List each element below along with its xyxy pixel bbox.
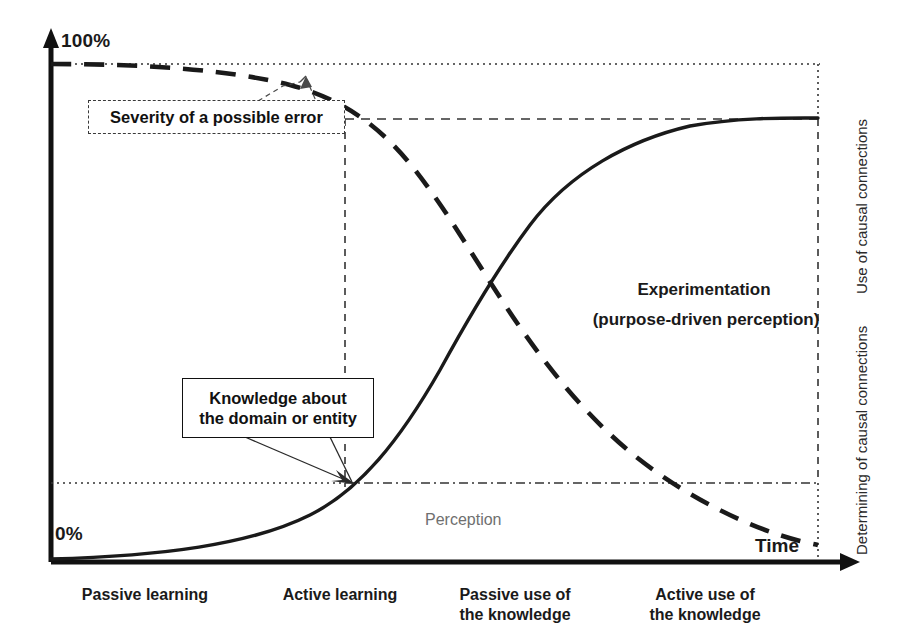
x-stage-label-active-learning: Active learning [240, 585, 440, 605]
curve-severity [51, 64, 818, 545]
y-axis [43, 28, 59, 562]
knowledge-callout[interactable]: Knowledge about the domain or entity [182, 378, 374, 438]
y-axis-min-label: 0% [55, 523, 83, 545]
zone-label-experimentation-sub: (purpose-driven perception) [576, 308, 836, 333]
knowledge-vs-error-diagram: 100% 0% Time Severity of a possible erro… [0, 0, 899, 642]
x-stage-label-passive-learning: Passive learning [45, 585, 245, 605]
zone-label-experimentation: Experimentation [594, 278, 814, 303]
curve-knowledge [51, 118, 818, 559]
y-axis-max-label: 100% [61, 30, 110, 52]
zone-label-perception: Perception [425, 511, 502, 529]
x-axis-label: Time [755, 535, 799, 557]
x-stage-label-passive-use: Passive use of the knowledge [425, 585, 605, 625]
severity-callout[interactable]: Severity of a possible error [88, 100, 345, 134]
right-axis-label-determining-of-causal-connections: Determining of causal connections [853, 326, 870, 555]
knowledge-callout-text: Knowledge about the domain or entity [199, 388, 357, 428]
x-stage-label-active-use: Active use of the knowledge [615, 585, 795, 625]
right-axis-label-use-of-causal-connections: Use of causal connections [853, 119, 870, 294]
knowledge-callout-leader [245, 437, 355, 484]
x-axis [51, 553, 860, 571]
